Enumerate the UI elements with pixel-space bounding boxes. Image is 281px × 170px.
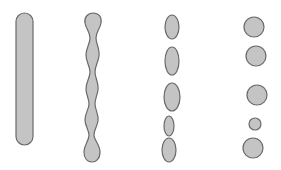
- spherical-droplet: [243, 138, 263, 158]
- perturbed-column: [84, 13, 101, 162]
- elongated-droplet: [165, 47, 179, 75]
- spherical-droplets: [243, 17, 267, 158]
- elongated-droplets: [162, 15, 180, 162]
- droplet-breakup-diagram: [0, 0, 281, 170]
- elongated-droplet: [165, 15, 179, 39]
- elongated-droplet: [162, 138, 176, 162]
- spherical-droplet: [244, 17, 264, 37]
- elongated-droplet: [164, 116, 174, 136]
- spherical-droplet: [247, 85, 267, 105]
- uniform-cylinder: [16, 13, 33, 145]
- wavy-column-shape: [84, 13, 101, 162]
- spherical-droplet: [249, 118, 261, 130]
- elongated-droplet: [164, 83, 180, 111]
- spherical-droplet: [246, 46, 266, 66]
- cylinder-shape: [16, 13, 33, 145]
